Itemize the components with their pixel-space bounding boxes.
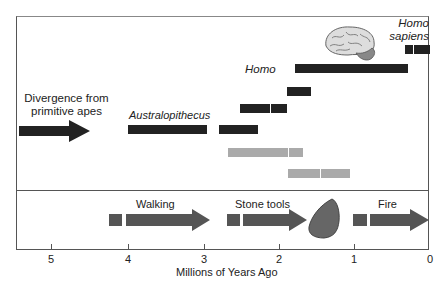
divergence-label: Divergence from primitive apes — [19, 92, 114, 118]
divergence-arrow-icon — [19, 120, 91, 142]
tick-5 — [51, 244, 52, 250]
gray-bar-4 — [321, 169, 350, 178]
homo-bar-2 — [287, 87, 311, 96]
panel-divider — [16, 190, 429, 191]
divergence-line2: primitive apes — [19, 105, 114, 118]
australopithecus-bar-3 — [240, 104, 270, 113]
walking-block — [109, 214, 122, 226]
tick-label-1: 1 — [344, 253, 364, 265]
australopithecus-bar-2 — [219, 125, 258, 134]
fire-block — [353, 214, 367, 226]
stone-tool-icon — [306, 197, 344, 241]
tick-label-4: 4 — [118, 253, 138, 265]
homo-label: Homo — [245, 63, 276, 76]
tick-3 — [204, 244, 205, 250]
stone-tools-arrow-icon — [243, 209, 308, 231]
brain-icon — [322, 24, 380, 64]
gray-bar-2 — [289, 148, 303, 157]
gray-bar-3 — [288, 169, 320, 178]
australopithecus-label: Australopithecus — [129, 109, 210, 122]
homo-bar — [295, 64, 408, 73]
homo-sapiens-bar-1 — [405, 45, 413, 54]
tick-2 — [279, 244, 280, 250]
walking-arrow-icon — [126, 209, 211, 231]
tick-label-2: 2 — [269, 253, 289, 265]
tick-1 — [354, 244, 355, 250]
stone-tools-block — [227, 214, 240, 226]
australopithecus-bar-1 — [128, 125, 207, 134]
tick-label-3: 3 — [194, 253, 214, 265]
homo-sapiens-label: Homo sapiens — [387, 17, 429, 43]
divergence-line1: Divergence from — [19, 92, 114, 105]
homo-sapiens-line2: sapiens — [387, 30, 429, 43]
fire-arrow-icon — [370, 209, 430, 231]
homo-sapiens-line1: Homo — [387, 17, 429, 30]
tick-label-5: 5 — [41, 253, 61, 265]
axis-label: Millions of Years Ago — [176, 266, 278, 279]
gray-bar-1 — [228, 148, 288, 157]
tick-label-0: 0 — [420, 253, 440, 265]
tick-4 — [128, 244, 129, 250]
australopithecus-bar-4 — [271, 104, 287, 113]
homo-sapiens-bar-2 — [414, 45, 430, 54]
